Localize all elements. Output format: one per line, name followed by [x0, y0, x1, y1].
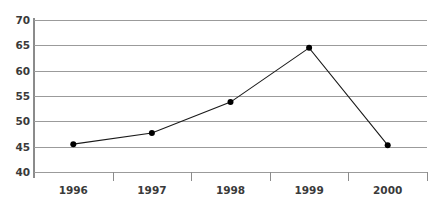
- x-tick-label: 1996: [43, 185, 103, 196]
- y-tick-label: 55: [4, 91, 30, 102]
- x-tick-mark: [270, 172, 271, 181]
- x-tick-label: 1998: [201, 185, 261, 196]
- data-point-marker: [385, 142, 391, 148]
- x-tick-label: 2000: [358, 185, 418, 196]
- y-tick-label: 45: [4, 142, 30, 153]
- y-tick-label: 60: [4, 66, 30, 77]
- y-tick-label: 65: [4, 40, 30, 51]
- chart-screenshot: 70656055504540 19961997199819992000: [0, 0, 440, 205]
- y-tick-label: 40: [4, 167, 30, 178]
- x-tick-mark: [348, 172, 349, 181]
- y-tick-label: 70: [4, 15, 30, 26]
- x-tick-mark: [191, 172, 192, 181]
- data-point-marker: [70, 141, 76, 147]
- data-point-marker: [306, 45, 312, 51]
- cropped-title-text: [0, 0, 440, 3]
- series-line: [73, 48, 387, 145]
- data-point-marker: [228, 99, 234, 105]
- line-series: [34, 20, 427, 172]
- x-tick-mark: [427, 172, 428, 181]
- data-point-marker: [149, 130, 155, 136]
- x-tick-label: 1999: [279, 185, 339, 196]
- plot-area: [34, 20, 427, 172]
- y-axis-labels: 70656055504540: [0, 0, 30, 205]
- x-tick-label: 1997: [122, 185, 182, 196]
- y-tick-label: 50: [4, 116, 30, 127]
- x-tick-mark: [113, 172, 114, 181]
- gridline: [34, 172, 427, 173]
